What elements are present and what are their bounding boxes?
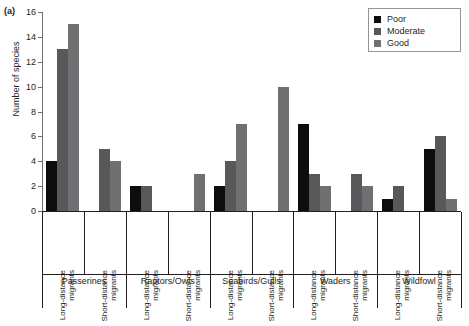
bar-poor xyxy=(46,161,57,211)
separator xyxy=(168,212,169,274)
bar-group-bars xyxy=(252,12,294,211)
y-tick-label: 8 xyxy=(31,107,36,117)
separator xyxy=(293,212,294,308)
family-label: Passerines xyxy=(42,276,126,286)
y-axis-title: Number of species xyxy=(11,19,21,139)
family-divider xyxy=(293,274,377,275)
family-divider xyxy=(126,274,210,275)
separator xyxy=(461,212,462,308)
bar-group xyxy=(293,12,335,211)
legend-swatch-moderate xyxy=(374,28,381,35)
separator xyxy=(377,212,378,308)
bar-moderate xyxy=(57,49,68,211)
bar-moderate xyxy=(99,149,110,211)
bar-group-bars xyxy=(126,12,168,211)
bar-moderate xyxy=(351,174,362,211)
separator xyxy=(126,212,127,308)
legend-label: Moderate xyxy=(387,26,425,36)
bar-group xyxy=(252,12,294,211)
separator xyxy=(419,212,420,274)
bar-poor xyxy=(130,186,141,211)
bar-group-bars xyxy=(84,12,126,211)
bar-moderate xyxy=(141,186,152,211)
legend-label: Poor xyxy=(387,14,406,24)
bar-poor xyxy=(214,186,225,211)
y-tick-label: 14 xyxy=(26,32,36,42)
bar-moderate xyxy=(435,136,446,211)
y-tick-label: 4 xyxy=(31,156,36,166)
bar-group xyxy=(210,12,252,211)
legend-swatch-poor xyxy=(374,16,381,23)
separator xyxy=(84,212,85,274)
legend-swatch-good xyxy=(374,40,381,47)
separator xyxy=(252,212,253,274)
bar-moderate xyxy=(225,161,236,211)
bar-poor xyxy=(382,199,393,211)
legend-label: Good xyxy=(387,38,409,48)
bar-moderate xyxy=(309,174,320,211)
legend-item: Poor xyxy=(374,13,455,25)
bar-good xyxy=(446,199,457,211)
bar-group xyxy=(84,12,126,211)
bar-poor xyxy=(424,149,435,211)
family-divider xyxy=(42,274,126,275)
family-label: Waders xyxy=(293,276,377,286)
separator xyxy=(42,212,43,308)
bar-group-bars xyxy=(42,12,84,211)
y-tick-label: 10 xyxy=(26,82,36,92)
legend-rows: PoorModerateGood xyxy=(374,13,455,49)
y-tick-label: 16 xyxy=(26,7,36,17)
family-divider xyxy=(210,274,294,275)
bar-poor xyxy=(298,124,309,211)
bar-group xyxy=(168,12,210,211)
bar-good xyxy=(68,24,79,211)
bar-good xyxy=(110,161,121,211)
family-label: Seabirds/Gulls xyxy=(210,276,294,286)
bar-good xyxy=(236,124,247,211)
bar-moderate xyxy=(393,186,404,211)
family-label: Wildfowl xyxy=(377,276,461,286)
bar-group xyxy=(42,12,84,211)
family-label: Raptors/Owls xyxy=(126,276,210,286)
separator xyxy=(210,212,211,308)
bar-good xyxy=(194,174,205,211)
y-tick-label: 12 xyxy=(26,57,36,67)
y-tick-label: 0 xyxy=(31,206,36,216)
y-tick-label: 2 xyxy=(31,181,36,191)
x-axis-labels-area: Long-distancemigrantsShort-distancemigra… xyxy=(42,212,461,308)
bar-good xyxy=(362,186,373,211)
bar-group-bars xyxy=(293,12,335,211)
legend-item: Good xyxy=(374,37,455,49)
separator xyxy=(335,212,336,274)
legend-item: Moderate xyxy=(374,25,455,37)
bar-group-bars xyxy=(210,12,252,211)
bar-good xyxy=(320,186,331,211)
legend: PoorModerateGood xyxy=(368,8,461,52)
panel-label: (a) xyxy=(4,6,15,16)
family-divider xyxy=(377,274,461,275)
bar-good xyxy=(278,87,289,211)
bar-group-bars xyxy=(168,12,210,211)
y-tick-label: 6 xyxy=(31,131,36,141)
bar-group xyxy=(126,12,168,211)
